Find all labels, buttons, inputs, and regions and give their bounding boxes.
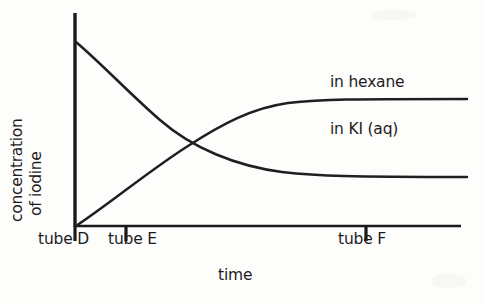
y-axis-title-line-1: concentration (8, 119, 26, 222)
y-axis-title-line-2: of iodine (27, 152, 45, 216)
x-tick-label-tube-f: tube F (338, 232, 386, 248)
x-tick-label-tube-e: tube E (108, 232, 157, 248)
curve-in-ki-aq (76, 42, 467, 177)
curve-in-hexane (76, 99, 467, 226)
series-label-in-hexane: in hexane (330, 75, 404, 91)
y-axis-title: concentration of iodine (14, 62, 74, 222)
series-label-in-ki-aq: in KI (aq) (330, 122, 398, 138)
chart-figure: concentration of iodine tube D tube E tu… (0, 0, 482, 304)
x-axis-title: time (218, 268, 252, 284)
x-tick-label-tube-d: tube D (38, 232, 89, 248)
